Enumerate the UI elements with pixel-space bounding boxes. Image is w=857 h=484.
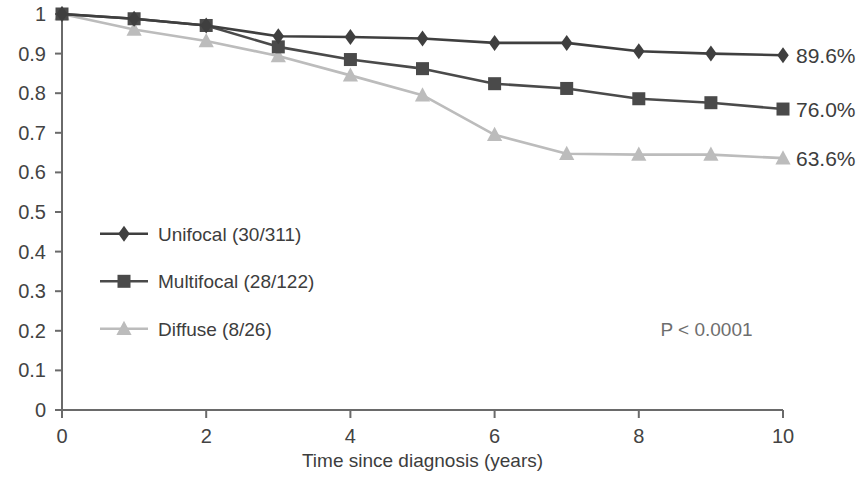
series-end-label: 76.0% — [796, 98, 856, 121]
y-tick-label: 0.7 — [18, 122, 46, 144]
diamond-marker — [417, 31, 429, 47]
x-axis-tick-labels: 0246810 — [56, 425, 794, 447]
x-tick-label: 10 — [772, 425, 794, 447]
square-marker — [704, 96, 717, 109]
end-labels-group: 89.6%76.0%63.6% — [796, 44, 856, 170]
p-value-annotation: P < 0.0001 — [660, 319, 752, 340]
y-tick-label: 0.4 — [18, 241, 46, 263]
diamond-marker — [633, 43, 645, 59]
y-tick-label: 0.6 — [18, 161, 46, 183]
y-tick-label: 0.5 — [18, 201, 46, 223]
series-end-label: 63.6% — [796, 147, 856, 170]
legend-item: Multifocal (28/122) — [100, 271, 314, 292]
series-group — [54, 6, 790, 164]
square-marker — [416, 62, 429, 75]
x-tick-label: 2 — [201, 425, 212, 447]
x-axis-tick-marks — [62, 410, 783, 418]
y-tick-label: 0.9 — [18, 43, 46, 65]
x-tick-label: 4 — [345, 425, 356, 447]
p-value-text: P < 0.0001 — [660, 319, 752, 340]
diamond-marker — [561, 35, 573, 51]
square-marker — [632, 92, 645, 105]
x-tick-label: 8 — [633, 425, 644, 447]
series-triangle — [54, 6, 790, 164]
square-marker — [488, 77, 501, 90]
chart-legend: Unifocal (30/311)Multifocal (28/122)Diff… — [100, 224, 314, 340]
y-tick-label: 0 — [35, 399, 46, 421]
x-tick-label: 0 — [56, 425, 67, 447]
diamond-marker — [777, 47, 789, 63]
y-axis-tick-marks — [55, 14, 62, 410]
series-end-label: 89.6% — [796, 44, 856, 67]
chart-canvas: 00.10.20.30.40.50.60.70.80.91 0246810 89… — [0, 0, 857, 484]
legend-item-label: Multifocal (28/122) — [158, 271, 314, 292]
y-axis-tick-labels: 00.10.20.30.40.50.60.70.80.91 — [18, 3, 46, 421]
legend-item: Diffuse (8/26) — [100, 319, 272, 340]
diamond-marker — [705, 46, 717, 62]
legend-item-label: Diffuse (8/26) — [158, 319, 272, 340]
x-axis-title: Time since diagnosis (years) — [302, 450, 543, 471]
x-tick-label: 6 — [489, 425, 500, 447]
y-tick-label: 0.2 — [18, 320, 46, 342]
legend-item-label: Unifocal (30/311) — [158, 224, 301, 245]
y-tick-label: 0.3 — [18, 280, 46, 302]
diamond-marker — [118, 226, 130, 242]
diamond-marker — [489, 35, 501, 51]
square-marker — [560, 82, 573, 95]
square-marker — [118, 275, 131, 288]
triangle-marker — [487, 127, 502, 141]
square-marker — [777, 103, 790, 116]
legend-item: Unifocal (30/311) — [100, 224, 301, 245]
y-tick-label: 0.8 — [18, 82, 46, 104]
y-tick-label: 0.1 — [18, 359, 46, 381]
survival-chart: 00.10.20.30.40.50.60.70.80.91 0246810 89… — [0, 0, 857, 484]
y-tick-label: 1 — [35, 3, 46, 25]
diamond-marker — [345, 29, 357, 45]
square-marker — [344, 53, 357, 66]
